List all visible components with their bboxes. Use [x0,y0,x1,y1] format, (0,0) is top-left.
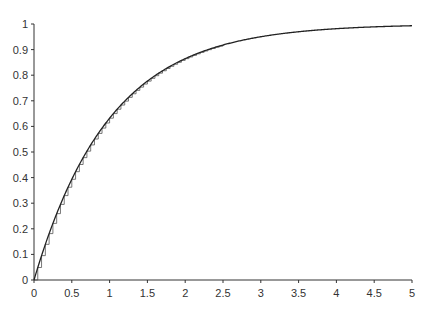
y-tick-label: 0.4 [13,172,28,184]
x-axis-ticks: 00.511.522.533.544.55 [31,280,415,299]
y-tick-label: 0.9 [13,44,28,56]
y-axis-ticks: 00.10.20.30.40.50.60.70.80.91 [13,18,34,286]
y-tick-label: 0.3 [13,197,28,209]
step-series [34,45,223,280]
x-tick-label: 4 [333,287,339,299]
x-tick-label: 2.5 [215,287,230,299]
x-tick-label: 3.5 [291,287,306,299]
x-tick-label: 0 [31,287,37,299]
chart-canvas: 00.511.522.533.544.55 00.10.20.30.40.50.… [0,0,427,313]
y-tick-label: 0.5 [13,146,28,158]
x-tick-label: 1.5 [140,287,155,299]
y-tick-label: 0.2 [13,223,28,235]
x-tick-label: 3 [258,287,264,299]
axes [34,24,412,280]
x-tick-label: 1 [107,287,113,299]
x-tick-label: 0.5 [64,287,79,299]
y-tick-label: 0.7 [13,95,28,107]
y-tick-label: 0.1 [13,248,28,260]
y-tick-label: 1 [22,18,28,30]
y-tick-label: 0 [22,274,28,286]
curve-series [34,26,412,280]
y-tick-label: 0.8 [13,69,28,81]
x-tick-label: 4.5 [367,287,382,299]
x-tick-label: 5 [409,287,415,299]
y-tick-label: 0.6 [13,120,28,132]
x-tick-label: 2 [182,287,188,299]
